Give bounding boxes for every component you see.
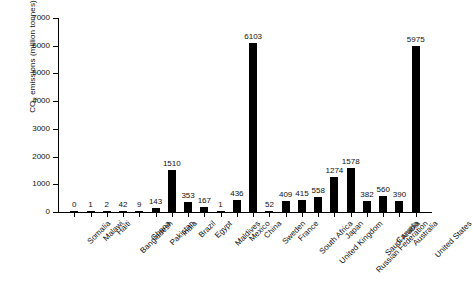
bar: 1274 xyxy=(330,177,338,212)
x-axis-tick xyxy=(367,213,368,217)
bar: 1510 xyxy=(168,170,176,212)
bar-value-label: 1 xyxy=(218,200,222,209)
bar: 1578 xyxy=(347,168,355,212)
bar: 560 xyxy=(379,196,387,212)
y-axis-tick: 6000 xyxy=(53,46,58,47)
bar: 0 xyxy=(70,211,78,212)
x-axis-tick xyxy=(204,213,205,217)
x-axis-tick xyxy=(172,213,173,217)
bar: 167 xyxy=(200,207,208,212)
x-axis-tick xyxy=(188,213,189,217)
bar-value-label: 2 xyxy=(105,200,109,209)
y-axis-tick: 3000 xyxy=(53,129,58,130)
x-axis-label: Brazil xyxy=(197,219,218,240)
y-axis-tick-label: 6000 xyxy=(32,41,50,50)
bar: 1 xyxy=(217,211,225,212)
x-axis-tick xyxy=(334,213,335,217)
y-axis-tick-label: 3000 xyxy=(32,124,50,133)
bar: 42 xyxy=(119,211,127,212)
bar-value-label: 390 xyxy=(393,190,406,199)
bar-value-label: 9 xyxy=(137,200,141,209)
x-axis-tick xyxy=(91,213,92,217)
bar-value-label: 353 xyxy=(181,191,194,200)
bar: 9 xyxy=(135,211,143,212)
x-axis-tick xyxy=(302,213,303,217)
y-axis-tick: 0 xyxy=(53,212,58,213)
x-axis-tick xyxy=(269,213,270,217)
bar-value-label: 167 xyxy=(198,196,211,205)
y-axis-tick-label: 2000 xyxy=(32,152,50,161)
bar-value-label: 1510 xyxy=(163,159,181,168)
y-axis-tick: 7000 xyxy=(53,18,58,19)
y-axis-tick-label: 5000 xyxy=(32,68,50,77)
x-axis-tick xyxy=(383,213,384,217)
x-axis-tick xyxy=(74,213,75,217)
bar: 143 xyxy=(152,208,160,212)
bar: 436 xyxy=(233,200,241,212)
y-axis-tick: 1000 xyxy=(53,184,58,185)
x-axis-tick xyxy=(416,213,417,217)
bar-value-label: 42 xyxy=(119,200,128,209)
y-axis-tick: 5000 xyxy=(53,73,58,74)
x-axis-tick xyxy=(221,213,222,217)
y-axis-line xyxy=(58,18,59,213)
bar: 409 xyxy=(282,201,290,212)
y-axis-tick-label: 4000 xyxy=(32,96,50,105)
bar: 52 xyxy=(265,211,273,212)
bar-value-label: 382 xyxy=(360,190,373,199)
bar: 353 xyxy=(184,202,192,212)
y-axis-tick-label: 0 xyxy=(46,207,50,216)
x-axis-label: India xyxy=(180,219,199,238)
x-axis-tick xyxy=(107,213,108,217)
x-axis-tick xyxy=(139,213,140,217)
x-axis-label: Egypt xyxy=(213,219,234,240)
bar-value-label: 1274 xyxy=(326,166,344,175)
x-axis-tick xyxy=(156,213,157,217)
bar-value-label: 6103 xyxy=(244,32,262,41)
y-axis-tick-label: 1000 xyxy=(32,179,50,188)
bar-value-label: 409 xyxy=(279,190,292,199)
x-axis-tick xyxy=(351,213,352,217)
bar-value-label: 415 xyxy=(295,189,308,198)
bar-value-label: 560 xyxy=(377,185,390,194)
bar-value-label: 5975 xyxy=(407,35,425,44)
bar: 390 xyxy=(395,201,403,212)
x-axis-tick xyxy=(123,213,124,217)
bar: 5975 xyxy=(412,46,420,212)
y-axis-tick-label: 7000 xyxy=(32,13,50,22)
bar: 6103 xyxy=(249,43,257,212)
bar-value-label: 0 xyxy=(72,200,76,209)
x-axis-tick xyxy=(286,213,287,217)
x-axis-tick xyxy=(399,213,400,217)
bar: 382 xyxy=(363,201,371,212)
x-axis-tick xyxy=(318,213,319,217)
bar-value-label: 1 xyxy=(88,200,92,209)
bar-value-label: 1578 xyxy=(342,157,360,166)
bar: 2 xyxy=(103,211,111,212)
bar-value-label: 143 xyxy=(149,197,162,206)
bar-value-label: 52 xyxy=(265,200,274,209)
y-axis-tick: 4000 xyxy=(53,101,58,102)
bar: 415 xyxy=(298,200,306,212)
bar: 558 xyxy=(314,197,322,212)
bar: 1 xyxy=(87,211,95,212)
bar-value-label: 558 xyxy=(311,186,324,195)
x-axis-line xyxy=(58,212,432,213)
x-axis-tick xyxy=(237,213,238,217)
bar-value-label: 436 xyxy=(230,189,243,198)
x-axis-tick xyxy=(253,213,254,217)
y-axis-tick: 2000 xyxy=(53,157,58,158)
